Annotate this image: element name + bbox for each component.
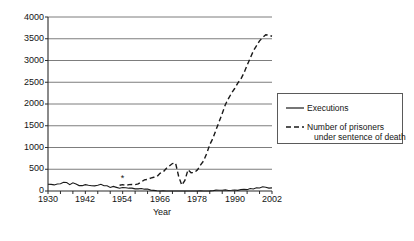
y-tick-label-2500: 2500 <box>10 77 44 87</box>
gridlines <box>48 17 272 169</box>
x-tick-label-1990: 1990 <box>218 194 252 204</box>
x-tick-label-2002: 2002 <box>255 194 289 204</box>
y-tick-label-500: 500 <box>10 163 44 173</box>
x-tick-label-1942: 1942 <box>68 194 102 204</box>
x-tick-label-1954: 1954 <box>105 194 139 204</box>
chart-figure: 4000 3500 3000 2500 2000 1500 1000 500 0… <box>0 0 414 241</box>
x-tick-label-1930: 1930 <box>31 194 65 204</box>
y-tick-label-1500: 1500 <box>10 120 44 130</box>
chart-legend: Executions Number of prisoners under sen… <box>277 93 403 144</box>
asterisk-annotation: * <box>121 174 125 183</box>
legend-label-prisoners-line2: under sentence of death <box>314 132 406 143</box>
x-tick-label-1966: 1966 <box>143 194 177 204</box>
y-tick-label-2000: 2000 <box>10 98 44 108</box>
x-axis-title: Year <box>117 207 207 217</box>
y-tick-label-1000: 1000 <box>10 142 44 152</box>
legend-label-executions: Executions <box>307 103 349 114</box>
y-tick-label-3500: 3500 <box>10 33 44 43</box>
y-tick-label-4000: 4000 <box>10 12 44 22</box>
series-line-prisoners <box>120 35 272 186</box>
x-tick-label-1978: 1978 <box>180 194 214 204</box>
y-tick-label-3000: 3000 <box>10 55 44 65</box>
series-line-executions <box>48 182 272 191</box>
